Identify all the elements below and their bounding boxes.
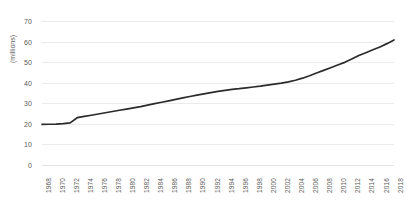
y-tick-label: 70 <box>24 18 32 25</box>
line-series-path <box>42 40 394 125</box>
x-tick-label: 1970 <box>59 178 66 193</box>
x-tick-label: 2018 <box>397 178 404 193</box>
x-tick-label: 2016 <box>383 178 390 193</box>
x-tick-label: 2006 <box>312 178 319 193</box>
x-tick-label: 1988 <box>185 178 192 193</box>
x-tick-label: 2010 <box>340 178 347 193</box>
y-axis-tick-labels: 010203040506070 <box>0 21 38 165</box>
x-tick-label: 1984 <box>157 178 164 193</box>
x-tick-label: 2008 <box>326 178 333 193</box>
y-tick-label: 60 <box>24 38 32 45</box>
x-tick-label: 1982 <box>143 178 150 193</box>
x-tick-label: 1986 <box>171 178 178 193</box>
y-tick-label: 40 <box>24 79 32 86</box>
x-tick-label: 2012 <box>354 178 361 193</box>
x-tick-label: 1994 <box>228 178 235 193</box>
chart-screenshot: (millions) 010203040506070 1968197019721… <box>0 0 407 224</box>
plot-area <box>42 21 394 165</box>
x-tick-label: 1992 <box>214 178 221 193</box>
line-series-svg <box>42 21 394 165</box>
x-tick-label: 1976 <box>101 178 108 193</box>
y-tick-label: 0 <box>28 162 32 169</box>
x-tick-label: 1990 <box>199 178 206 193</box>
x-tick-label: 1980 <box>129 178 136 193</box>
x-tick-label: 1972 <box>73 178 80 193</box>
x-tick-label: 1998 <box>256 178 263 193</box>
x-tick-label: 1968 <box>45 178 52 193</box>
x-tick-label: 2014 <box>368 178 375 193</box>
gridline-0 <box>42 165 394 166</box>
x-tick-label: 1996 <box>242 178 249 193</box>
x-tick-label: 2000 <box>270 178 277 193</box>
x-axis-tick-labels: 1968197019721974197619781980198219841986… <box>42 167 394 219</box>
x-tick-label: 2002 <box>284 178 291 193</box>
x-tick-label: 1974 <box>87 178 94 193</box>
x-tick-label: 2004 <box>298 178 305 193</box>
y-tick-label: 30 <box>24 100 32 107</box>
y-tick-label: 10 <box>24 141 32 148</box>
y-tick-label: 50 <box>24 59 32 66</box>
x-tick-label: 1978 <box>115 178 122 193</box>
y-tick-label: 20 <box>24 120 32 127</box>
